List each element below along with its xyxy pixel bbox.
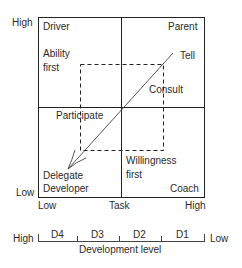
quadrant-driver-label: Driver bbox=[43, 21, 70, 32]
consult-label: Consult bbox=[149, 84, 183, 95]
y-axis-high-label: High bbox=[12, 17, 33, 28]
willingness-first-label-line1: Willingness bbox=[126, 155, 177, 166]
willingness-first-label-line2: first bbox=[126, 169, 142, 180]
scale-level-d1: D1 bbox=[176, 229, 189, 240]
participate-label: Participate bbox=[56, 110, 103, 121]
scale-level-d3: D3 bbox=[91, 229, 104, 240]
x-axis-high-label: High bbox=[185, 200, 206, 211]
quadrant-developer-label: Developer bbox=[43, 183, 89, 194]
tell-label: Tell bbox=[180, 50, 195, 61]
delegate-label: Delegate bbox=[43, 170, 83, 181]
y-axis-low-label: Low bbox=[16, 187, 34, 198]
x-axis-low-label: Low bbox=[38, 200, 56, 211]
scale-low-label: Low bbox=[210, 233, 228, 244]
scale-level-d4: D4 bbox=[51, 229, 64, 240]
ability-first-label-line1: Ability bbox=[43, 48, 70, 59]
diagram-lines bbox=[0, 0, 242, 268]
scale-title: Development level bbox=[79, 244, 161, 255]
x-axis-task-label: Task bbox=[109, 200, 130, 211]
scale-high-label: High bbox=[13, 233, 34, 244]
quadrant-parent-label: Parent bbox=[168, 21, 197, 32]
ability-first-label-line2: first bbox=[43, 62, 59, 73]
scale-level-d2: D2 bbox=[133, 229, 146, 240]
quadrant-coach-label: Coach bbox=[170, 183, 199, 194]
